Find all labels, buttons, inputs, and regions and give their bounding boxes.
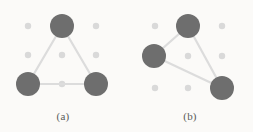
grid-dot <box>93 23 99 29</box>
graph-node <box>84 72 108 96</box>
grid-dot <box>185 85 191 91</box>
grid-dot <box>93 52 99 58</box>
figure-container: (a) (b) <box>0 0 253 132</box>
caption-b: (b) <box>127 111 253 122</box>
panel-a: (a) <box>0 0 126 132</box>
graph-node <box>210 76 234 100</box>
grid-dot <box>219 23 225 29</box>
grid-dot <box>152 23 158 29</box>
graph-diagram-a <box>0 0 126 110</box>
grid-dot <box>59 52 65 58</box>
panel-b: (b) <box>127 0 253 132</box>
grid-dot <box>25 52 31 58</box>
graph-node <box>50 14 74 38</box>
graph-diagram-b <box>127 0 253 110</box>
grid-dot <box>219 53 225 59</box>
caption-a: (a) <box>0 111 126 122</box>
grid-dot <box>185 53 191 59</box>
grid-dot <box>25 23 31 29</box>
graph-node <box>16 72 40 96</box>
graph-node <box>142 44 166 68</box>
graph-node <box>176 14 200 38</box>
grid-dot <box>152 85 158 91</box>
